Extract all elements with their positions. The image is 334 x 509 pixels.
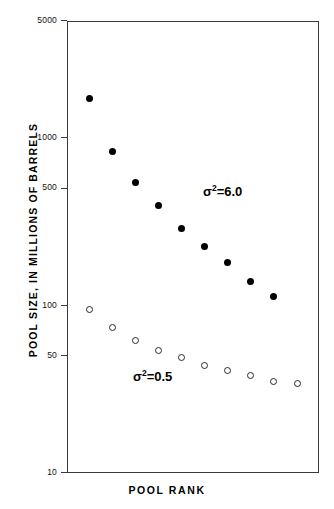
figure-container: 500010005001005010 POOL SIZE, IN MILLION… [0, 0, 334, 509]
y-axis-tick [61, 20, 67, 21]
data-point [201, 362, 208, 369]
y-axis-tick [61, 355, 67, 356]
y-axis-tick [61, 472, 67, 473]
x-axis-title: POOL RANK [0, 484, 334, 496]
plot-area-frame [67, 21, 319, 473]
data-point [86, 95, 93, 102]
data-point [224, 367, 231, 374]
data-point [132, 337, 139, 344]
data-point [247, 278, 254, 285]
data-point [178, 225, 185, 232]
y-axis-tick-label: 5000 [37, 16, 57, 25]
annotation-sigma-6: σ2=6.0 [203, 184, 242, 199]
y-axis-tick [61, 188, 67, 189]
data-point [109, 324, 116, 331]
y-axis-tick-label: 50 [47, 351, 57, 360]
y-axis-tick-label: 10 [47, 468, 57, 477]
data-point [155, 202, 162, 209]
data-point [86, 306, 93, 313]
annotation-sigma-05: σ2=0.5 [133, 369, 172, 384]
y-axis-tick-label: 500 [42, 183, 57, 192]
y-axis-tick-label: 1000 [37, 133, 57, 142]
data-point [132, 179, 139, 186]
y-axis-tick [61, 305, 67, 306]
y-axis-tick-label: 100 [42, 301, 57, 310]
data-point [155, 347, 162, 354]
data-point [178, 354, 185, 361]
y-axis-tick [61, 137, 67, 138]
y-axis-title: POOL SIZE, IN MILLIONS OF BARRELS [27, 100, 39, 380]
data-point [109, 148, 116, 155]
